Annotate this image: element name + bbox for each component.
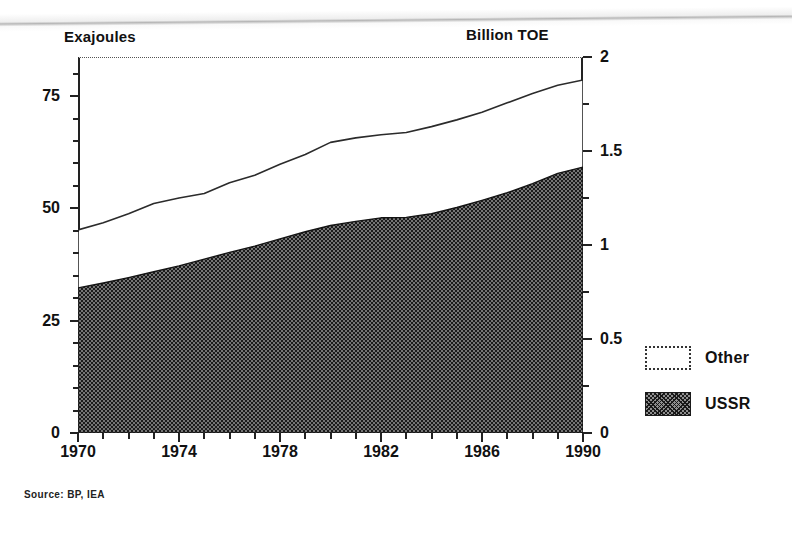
y-tick-label-right: 1.5 (600, 142, 622, 160)
x-tick-minor (532, 433, 534, 439)
x-tick-minor (506, 433, 508, 439)
y-tick-major-right (583, 150, 592, 152)
x-tick-major (481, 433, 483, 442)
x-tick-minor (102, 433, 104, 439)
x-tick-minor (557, 433, 559, 439)
y-tick-label-right: 0.5 (600, 330, 622, 348)
x-tick-minor (431, 433, 433, 439)
y-tick-minor-left (73, 230, 79, 232)
y-tick-minor-left (73, 140, 79, 142)
x-tick-minor (254, 433, 256, 439)
y-tick-minor-left (73, 275, 79, 277)
legend-item-other: Other (645, 345, 785, 371)
hatched-swatch-icon (645, 392, 691, 416)
x-tick-minor (405, 433, 407, 439)
y-tick-major-left (70, 95, 79, 97)
x-tick-label: 1978 (262, 443, 298, 461)
y-tick-major-left (70, 320, 79, 322)
plot-area (78, 57, 583, 433)
y-tick-label-right: 0 (600, 424, 609, 442)
x-tick-minor (304, 433, 306, 439)
y-axis-left: 0255075 (8, 57, 60, 433)
y-tick-label-right: 1 (600, 236, 609, 254)
y-tick-label-right: 2 (600, 48, 609, 66)
y-tick-label-left: 0 (51, 424, 60, 442)
legend-label-other: Other (705, 349, 749, 367)
y-tick-label-left: 75 (42, 87, 60, 105)
y-tick-major-right (583, 244, 592, 246)
y-tick-major-right (583, 432, 592, 434)
x-tick-label: 1970 (60, 443, 96, 461)
x-tick-major (380, 433, 382, 442)
x-tick-minor (456, 433, 458, 439)
source-note: Source: BP, IEA (24, 489, 105, 500)
y-tick-minor-left (73, 118, 79, 120)
x-tick-label: 1974 (161, 443, 197, 461)
y-tick-minor-left (73, 73, 79, 75)
x-axis: 197019741978198219861990 (0, 443, 700, 473)
stacked-area-plot (78, 57, 583, 433)
y-tick-major-right (583, 56, 592, 58)
legend-item-ussr: USSR (645, 391, 785, 417)
x-tick-label: 1990 (565, 443, 601, 461)
x-tick-label: 1986 (464, 443, 500, 461)
x-tick-minor (128, 433, 130, 439)
y-tick-minor-right (583, 291, 589, 293)
y-tick-minor-left (73, 387, 79, 389)
y-tick-label-left: 25 (42, 312, 60, 330)
x-tick-label: 1982 (363, 443, 399, 461)
x-tick-major (582, 433, 584, 442)
y-tick-minor-right (583, 385, 589, 387)
y-tick-minor-left (73, 410, 79, 412)
y-tick-major-right (583, 338, 592, 340)
y-tick-minor-left (73, 342, 79, 344)
x-tick-major (77, 433, 79, 442)
y-tick-major-left (70, 207, 79, 209)
y-tick-minor-left (73, 185, 79, 187)
empty-dotted-swatch-icon (645, 346, 691, 370)
y-tick-label-left: 50 (42, 199, 60, 217)
legend-label-ussr: USSR (705, 395, 751, 413)
x-tick-major (178, 433, 180, 442)
x-tick-minor (229, 433, 231, 439)
y-tick-minor-right (583, 103, 589, 105)
chart-page: Exajoules Billion TOE 0255075 00.511.52 … (0, 0, 792, 539)
left-axis-title: Exajoules (64, 28, 136, 45)
x-tick-minor (153, 433, 155, 439)
x-tick-minor (330, 433, 332, 439)
right-axis-title: Billion TOE (466, 26, 549, 43)
y-tick-minor-left (73, 162, 79, 164)
y-tick-minor-right (583, 197, 589, 199)
chart-legend: Other USSR (645, 345, 785, 437)
x-tick-major (279, 433, 281, 442)
x-tick-minor (355, 433, 357, 439)
y-tick-minor-left (73, 365, 79, 367)
y-tick-minor-left (73, 297, 79, 299)
y-tick-minor-left (73, 252, 79, 254)
x-tick-minor (203, 433, 205, 439)
